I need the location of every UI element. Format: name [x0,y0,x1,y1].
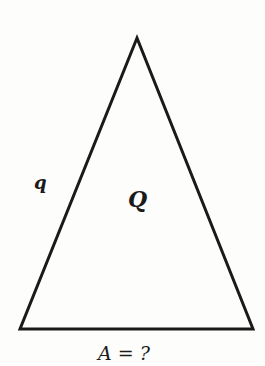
base-label: A = ? [96,342,151,364]
triangle [20,38,253,329]
triangle-diagram: q Q A = ? [0,0,265,366]
area-label: Q [128,186,147,212]
side-label: q [34,172,47,193]
